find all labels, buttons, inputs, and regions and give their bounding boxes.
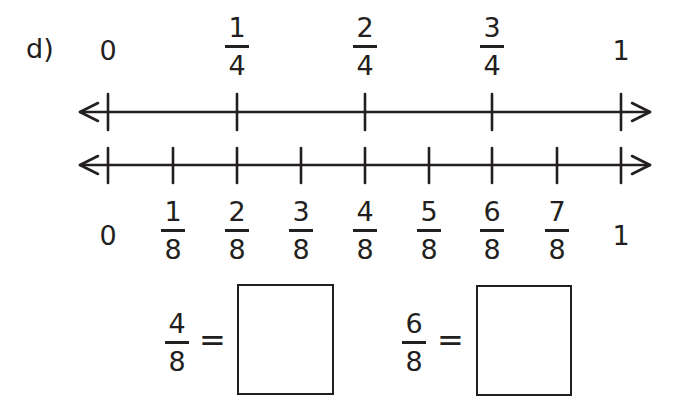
bottom-label-1: 1 bbox=[612, 222, 629, 249]
bottom-label-2-8: 2 8 bbox=[225, 198, 249, 263]
equation-fraction: 6 8 bbox=[402, 310, 426, 375]
equals-sign: = bbox=[199, 324, 226, 356]
bottom-label-4-8: 4 8 bbox=[353, 198, 377, 263]
bottom-label-1-8: 1 8 bbox=[161, 198, 185, 263]
bottom-label-7-8: 7 8 bbox=[545, 198, 569, 263]
top-number-line bbox=[80, 94, 650, 130]
answer-box-four-eighths[interactable] bbox=[237, 284, 334, 395]
fraction-bar bbox=[225, 229, 249, 232]
fraction-bar bbox=[161, 229, 185, 232]
bottom-label-0: 0 bbox=[99, 222, 116, 249]
fraction-bar bbox=[402, 341, 426, 344]
fraction-bar bbox=[480, 229, 504, 232]
equation-fraction: 4 8 bbox=[165, 310, 189, 375]
fraction-bar bbox=[545, 229, 569, 232]
fraction-bar bbox=[289, 229, 313, 232]
equals-sign: = bbox=[437, 324, 464, 356]
fraction-bar bbox=[165, 341, 189, 344]
answer-box-six-eighths[interactable] bbox=[476, 285, 572, 396]
fraction-bar bbox=[417, 229, 441, 232]
fraction-bar bbox=[353, 229, 377, 232]
number-lines bbox=[0, 0, 679, 406]
bottom-label-6-8: 6 8 bbox=[480, 198, 504, 263]
bottom-label-3-8: 3 8 bbox=[289, 198, 313, 263]
bottom-label-5-8: 5 8 bbox=[417, 198, 441, 263]
bottom-number-line bbox=[80, 148, 650, 183]
